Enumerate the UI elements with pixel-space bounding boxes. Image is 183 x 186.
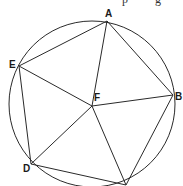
spokes [19,21,173,185]
edge-CD [31,164,126,185]
spoke-FC [92,106,126,185]
label-A: A [105,8,112,19]
label-F: F [94,92,100,103]
clipped-top-text-1: p [122,0,128,6]
edge-EA [19,21,107,66]
label-B: B [175,91,182,102]
spoke-FE [19,66,92,106]
clipped-top-text-2: g [155,0,161,6]
edge-DE [19,66,31,164]
spoke-FB [92,95,173,106]
edge-BC [126,95,173,185]
pentagon-edges [19,21,173,185]
geometry-diagram: p g A B C D E F [0,0,183,186]
edge-AB [107,21,173,95]
spoke-FD [31,106,92,164]
label-D: D [23,163,30,174]
label-E: E [9,59,16,70]
